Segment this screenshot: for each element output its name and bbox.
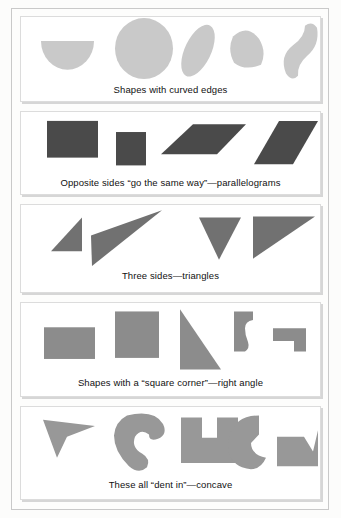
ellipse-tilted-shape xyxy=(174,19,221,82)
triangle-shapes-svg xyxy=(21,205,320,270)
square-shape xyxy=(115,312,159,358)
crescent-bean-shape xyxy=(284,23,318,78)
right-triangle-small-shape xyxy=(51,218,82,252)
right-triangle-large-shape xyxy=(253,216,315,258)
panel-caption: Three sides—triangles xyxy=(21,270,320,292)
figure-triangles xyxy=(21,205,320,270)
panel-caption: Shapes with a “square corner”—right angl… xyxy=(21,377,320,396)
right-triangle-tall-shape xyxy=(180,309,221,369)
step-corner-polygon-shape xyxy=(273,328,306,351)
chevron-notch-block-shape xyxy=(277,430,318,466)
rectangle-wide-shape xyxy=(47,121,98,158)
panel-right-angle: Shapes with a “square corner”—right angl… xyxy=(20,302,321,397)
curved-hook-polygon-shape xyxy=(234,312,253,352)
panel-stack: Shapes with curved edges Opposite sides … xyxy=(20,16,321,504)
arrowhead-dart-shape xyxy=(43,420,95,458)
square-shape xyxy=(116,132,146,165)
figure-concave xyxy=(21,407,320,479)
panel-curved-edges: Shapes with curved edges xyxy=(20,16,321,102)
panel-caption: Opposite sides “go the same way”—paralle… xyxy=(21,177,320,194)
panel-caption: Shapes with curved edges xyxy=(21,84,320,101)
concave-shapes-svg xyxy=(21,407,320,479)
parallelogram-flat-shape xyxy=(161,125,246,155)
inverted-triangle-shape xyxy=(199,218,241,260)
page-root: Shapes with curved edges Opposite sides … xyxy=(0,0,341,518)
parallelogram-shapes-svg xyxy=(21,112,320,177)
curved-shapes-svg xyxy=(21,17,320,84)
circle-shape xyxy=(115,18,173,79)
panel-parallelograms: Opposite sides “go the same way”—paralle… xyxy=(20,111,321,195)
figure-parallelograms xyxy=(21,112,320,177)
right-angle-shapes-svg xyxy=(21,303,320,377)
rounded-wedge-shape xyxy=(230,31,263,68)
thick-crescent-shape xyxy=(114,414,165,471)
figure-right-angle xyxy=(21,303,320,377)
figure-curved-edges xyxy=(21,17,320,84)
panel-concave: These all “dent in”—concave xyxy=(20,406,321,500)
rectangle-wide-shape xyxy=(44,327,95,359)
panel-triangles: Three sides—triangles xyxy=(20,204,321,293)
panel-caption: These all “dent in”—concave xyxy=(21,479,320,499)
parallelogram-slanted-shape xyxy=(254,121,318,164)
sliver-triangle-shape xyxy=(91,210,162,266)
half-disc-shape xyxy=(41,41,94,70)
